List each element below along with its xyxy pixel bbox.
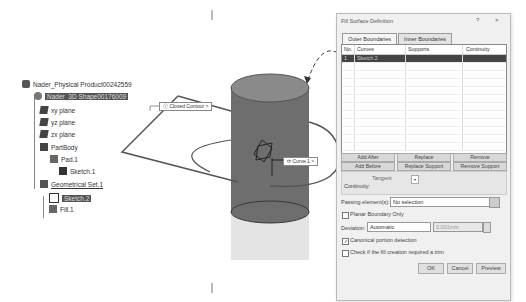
planar-boundary-label: Planar Boundary Only	[350, 211, 404, 217]
button-row-1: Add After Replace Remove	[341, 153, 507, 162]
curves-table[interactable]: No. Curves Supports Continuity 1 Sketch.…	[341, 44, 507, 154]
tree-item-sketch-1[interactable]: Sketch.1	[59, 167, 95, 175]
add-after-button[interactable]: Add After	[341, 153, 395, 162]
table-header: No. Curves Supports Continuity	[342, 45, 506, 55]
selector-icon[interactable]	[489, 197, 500, 208]
remove-button[interactable]: Remove	[453, 153, 507, 162]
sketch-icon	[59, 167, 67, 175]
tree-item-xy-plane[interactable]: xy plane	[40, 106, 75, 114]
tree-item-yz-plane[interactable]: yz plane	[40, 118, 75, 126]
replace-button[interactable]: Replace	[397, 153, 451, 162]
ok-button[interactable]: OK	[418, 263, 444, 274]
dialog-title: Fill Surface Definition	[341, 18, 393, 24]
tree-item-partbody[interactable]: PartBody	[40, 143, 78, 151]
check-trim-checkbox[interactable]	[342, 250, 349, 257]
check-trim-label: Check if the fill creation required a tr…	[350, 249, 444, 255]
plane-icon	[39, 118, 48, 126]
deviation-spinner[interactable]	[483, 222, 491, 233]
cancel-button[interactable]: Cancel	[447, 263, 473, 274]
tree-root[interactable]: Nader_Physical Product00242559	[22, 80, 132, 88]
deviation-amount-field[interactable]: 0.001mm	[433, 222, 483, 232]
close-button[interactable]: ×	[495, 17, 499, 23]
table-row[interactable]: 1 Sketch.2	[342, 55, 506, 63]
tree-item-zx-plane[interactable]: zx plane	[40, 130, 75, 138]
planar-boundary-checkbox[interactable]	[342, 212, 349, 219]
geoset-icon	[40, 180, 48, 188]
pad-icon	[50, 155, 58, 163]
shape-icon	[34, 92, 42, 100]
button-row-2: Add Before Replace Support Remove Suppor…	[341, 162, 507, 171]
replace-support-button[interactable]: Replace Support	[397, 162, 451, 171]
continuity-select[interactable]: Tangent	[372, 175, 392, 181]
chevron-down-icon[interactable]: ▾	[411, 175, 419, 184]
plane-icon	[39, 130, 48, 138]
body-icon	[40, 143, 48, 151]
tree-item-pad[interactable]: Pad.1	[50, 155, 78, 163]
continuity-group: Continuity: Tangent ▾	[341, 171, 507, 195]
tree-item-geometrical-set[interactable]: Geometrical Set.1	[40, 180, 103, 188]
fill-icon	[49, 205, 57, 213]
product-icon	[22, 80, 30, 88]
plane-icon	[39, 106, 48, 114]
boundary-tabs: Outer Boundaries Inner Boundaries	[342, 33, 453, 44]
canonical-checkbox[interactable]: ✓	[342, 238, 349, 245]
passing-elements-label: Passing element(s):	[341, 199, 390, 205]
preview-button[interactable]: Preview	[476, 263, 506, 274]
deviation-label: Deviation:	[341, 225, 365, 231]
tree-shape[interactable]: Nader_3D Shape00176009	[34, 92, 128, 100]
tree-item-sketch-2[interactable]: Sketch.2	[49, 193, 91, 203]
sketch-icon	[49, 193, 59, 203]
fill-surface-dialog: Fill Surface Definition ? × Outer Bounda…	[336, 13, 511, 301]
add-before-button[interactable]: Add Before	[341, 162, 395, 171]
tab-inner-boundaries[interactable]: Inner Boundaries	[398, 33, 452, 44]
help-button[interactable]: ?	[476, 17, 479, 23]
passing-elements-field[interactable]: No selection	[390, 197, 490, 207]
canonical-label: Canonical portion detection	[350, 237, 417, 243]
tree-item-fill[interactable]: Fill.1	[49, 205, 74, 213]
remove-support-button[interactable]: Remove Support	[453, 162, 507, 171]
deviation-select[interactable]: Automatic	[367, 222, 431, 232]
continuity-label: Continuity:	[344, 183, 370, 189]
tab-outer-boundaries[interactable]: Outer Boundaries	[342, 33, 397, 44]
